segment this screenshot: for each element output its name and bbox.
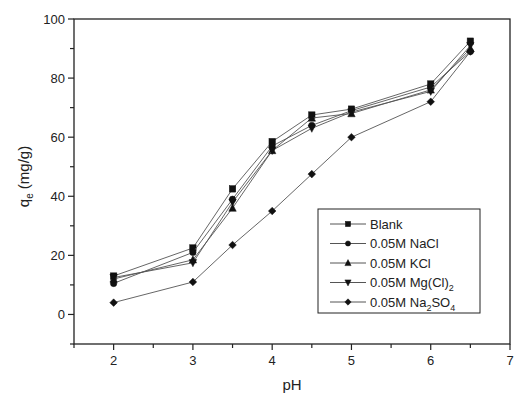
x-tick-label: 6 xyxy=(427,353,434,368)
x-axis: 234567 xyxy=(74,344,514,368)
x-tick-label: 4 xyxy=(269,353,276,368)
y-tick-label: 0 xyxy=(58,307,65,322)
y-tick-label: 20 xyxy=(51,248,65,263)
y-axis-title: qe (mg/g) xyxy=(15,146,35,207)
y-tick-label: 60 xyxy=(51,130,65,145)
x-tick-label: 2 xyxy=(110,353,117,368)
triangle-down-marker-icon xyxy=(308,125,315,132)
diamond-marker-icon xyxy=(110,299,118,307)
legend: Blank0.05M NaCl0.05M KCl0.05M Mg(Cl)20.0… xyxy=(318,209,480,313)
circle-marker-icon xyxy=(190,249,196,255)
y-tick-label: 40 xyxy=(51,189,65,204)
y-axis-title-unit: (mg/g) xyxy=(15,146,32,194)
x-tick-label: 3 xyxy=(189,353,196,368)
y-tick-label: 100 xyxy=(43,12,65,27)
x-tick-label: 7 xyxy=(506,353,513,368)
square-marker-icon xyxy=(229,186,235,192)
diamond-marker-icon xyxy=(427,98,435,106)
x-tick-label: 5 xyxy=(348,353,355,368)
legend-label: Blank xyxy=(370,217,403,232)
y-axis: 020406080100 xyxy=(43,12,74,345)
x-axis-title: pH xyxy=(282,376,301,393)
square-marker-icon xyxy=(345,221,350,226)
y-tick-label: 80 xyxy=(51,71,65,86)
legend-label: 0.05M KCl xyxy=(370,256,431,271)
y-axis-title-main: q xyxy=(15,199,32,207)
circle-marker-icon xyxy=(345,241,350,246)
chart: 234567 020406080100 Blank0.05M NaCl0.05M… xyxy=(0,0,517,404)
legend-label: 0.05M NaCl xyxy=(370,236,439,251)
